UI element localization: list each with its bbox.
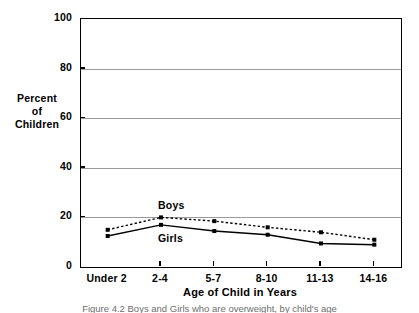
data-point-girls-4: [319, 241, 323, 245]
y-axis-label-line-1: Percent: [4, 92, 70, 105]
y-tick-label-100: 100: [24, 11, 72, 23]
series-lines: [81, 19, 401, 267]
data-point-boys-4: [319, 230, 323, 234]
y-tick-label-0: 0: [24, 259, 72, 271]
chart-figure: Percent of Children 020406080100 Under 2…: [0, 0, 419, 313]
y-tick-label-80: 80: [24, 61, 72, 73]
data-point-boys-0: [106, 228, 110, 232]
data-point-boys-3: [266, 225, 270, 229]
data-point-girls-3: [266, 233, 270, 237]
x-axis-title: Age of Child in Years: [80, 286, 400, 298]
data-point-girls-1: [159, 223, 163, 227]
data-point-boys-2: [212, 219, 216, 223]
figure-caption: Figure 4.2 Boys and Girls who are overwe…: [0, 303, 419, 313]
data-point-girls-5: [372, 243, 376, 247]
y-tick-label-20: 20: [24, 209, 72, 221]
plot-area: [80, 18, 402, 268]
y-tick-label-40: 40: [24, 160, 72, 172]
series-label-girls: Girls: [158, 232, 183, 244]
x-tick-label-14-16: 14-16: [333, 272, 413, 284]
data-point-boys-5: [372, 238, 376, 242]
series-label-boys: Boys: [158, 199, 184, 211]
data-point-girls-2: [212, 229, 216, 233]
series-line-girls: [108, 225, 375, 245]
data-point-girls-0: [106, 234, 110, 238]
series-line-boys: [108, 217, 375, 239]
y-tick-label-60: 60: [24, 110, 72, 122]
data-point-boys-1: [159, 215, 163, 219]
